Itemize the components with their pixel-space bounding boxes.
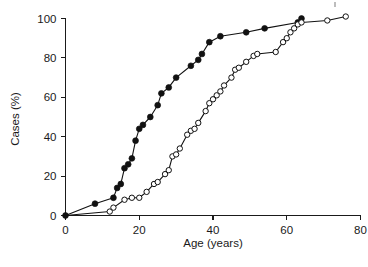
data-point-open-circle (203, 108, 208, 113)
data-point-filled-circle (166, 85, 172, 91)
data-point-filled-circle (129, 155, 135, 161)
data-point-filled-circle (199, 51, 205, 57)
data-point-open-circle (343, 14, 348, 19)
data-point-open-circle (129, 195, 134, 200)
data-point-open-circle (284, 36, 289, 41)
x-tick-label: 40 (207, 224, 220, 236)
data-point-filled-circle (206, 39, 212, 45)
y-tick-label: 100 (37, 13, 56, 25)
data-point-open-circle (325, 18, 330, 23)
x-tick-label: 80 (354, 224, 367, 236)
data-point-filled-circle (147, 114, 153, 120)
data-point-open-circle (177, 146, 182, 151)
data-point-open-circle (137, 195, 142, 200)
data-point-filled-circle (140, 122, 146, 128)
data-point-open-circle (144, 189, 149, 194)
data-point-open-circle (243, 59, 248, 64)
cumulative-cases-by-age-chart: 020406080 020406080100 Age (years) Cases… (0, 0, 368, 267)
data-point-filled-circle (125, 161, 131, 167)
y-tick-label: 60 (44, 91, 57, 103)
data-point-open-circle (236, 65, 241, 70)
data-point-open-circle (122, 197, 127, 202)
data-point-filled-circle (158, 90, 164, 96)
data-point-filled-circle (262, 25, 268, 31)
data-point-open-circle (273, 49, 278, 54)
y-axis-title: Cases (%) (9, 92, 21, 146)
data-point-filled-circle (188, 63, 194, 69)
y-tick-label: 20 (44, 170, 57, 182)
data-point-filled-circle (133, 138, 139, 144)
data-point-filled-circle (118, 181, 124, 187)
x-tick-label: 20 (133, 224, 146, 236)
data-point-open-circle (299, 20, 304, 25)
data-point-filled-circle (111, 195, 117, 201)
y-tick-label: 40 (44, 131, 57, 143)
data-point-filled-circle (243, 29, 249, 35)
stray-speck (334, 2, 336, 7)
data-point-filled-circle (173, 75, 179, 81)
data-point-filled-circle (155, 102, 161, 108)
data-point-open-circle (196, 120, 201, 125)
y-tick-label: 80 (44, 52, 57, 64)
x-axis-title: Age (years) (183, 237, 243, 249)
data-point-open-circle (111, 205, 116, 210)
y-tick-label: 0 (50, 210, 56, 222)
data-point-open-circle (173, 152, 178, 157)
data-point-filled-circle (195, 57, 201, 63)
data-point-open-circle (255, 51, 260, 56)
x-tick-label: 0 (62, 224, 68, 236)
data-point-filled-circle (92, 201, 98, 207)
data-point-open-circle (221, 83, 226, 88)
data-point-open-circle (192, 126, 197, 131)
data-point-open-circle (155, 179, 160, 184)
data-point-open-circle (218, 89, 223, 94)
data-point-open-circle (166, 167, 171, 172)
figure-container: 020406080 020406080100 Age (years) Cases… (0, 0, 368, 267)
x-tick-label: 60 (280, 224, 293, 236)
data-point-open-circle (229, 75, 234, 80)
data-point-filled-circle (217, 33, 223, 39)
